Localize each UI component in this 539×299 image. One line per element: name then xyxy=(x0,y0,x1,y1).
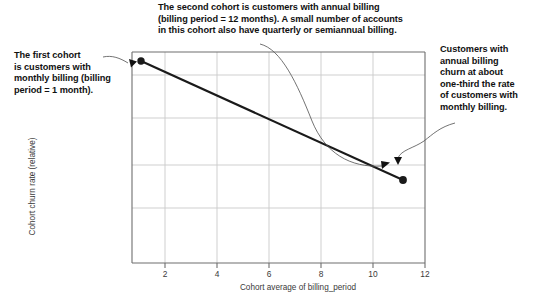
data-point-monthly xyxy=(137,57,144,64)
x-tick-label-12: 12 xyxy=(415,269,435,279)
x-tick-label-4: 4 xyxy=(207,269,227,279)
data-series-line xyxy=(141,61,403,180)
leader-line-churn-ratio xyxy=(398,123,455,158)
data-point-annual xyxy=(399,176,407,184)
x-tick-label-6: 6 xyxy=(259,269,279,279)
horizontal-gridlines xyxy=(132,75,425,208)
x-axis-title: Cohort average of billing_period xyxy=(213,283,383,292)
x-tick-marks xyxy=(165,263,425,268)
y-axis-title: Cohort churn rate (relative) xyxy=(28,107,37,267)
x-tick-label-8: 8 xyxy=(311,269,331,279)
arrowhead-churn-ratio xyxy=(394,157,402,165)
plot-canvas xyxy=(0,0,539,299)
arrowhead-first-cohort xyxy=(129,59,137,68)
plot-frame xyxy=(132,52,425,263)
chart-figure: The second cohort is customers with annu… xyxy=(0,0,539,299)
leader-line-first-cohort xyxy=(103,56,128,63)
x-tick-label-2: 2 xyxy=(155,269,175,279)
x-tick-label-10: 10 xyxy=(363,269,383,279)
